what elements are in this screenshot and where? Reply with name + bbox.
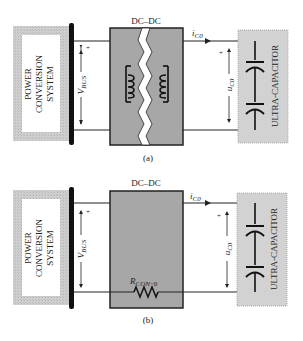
pcs-label-line1: POWER xyxy=(23,68,33,100)
svg-text:uC0: uC0 xyxy=(224,78,236,91)
caption-b: (b) xyxy=(143,315,154,325)
dcdc-label-b: DC–DC xyxy=(131,178,161,188)
current-arrow-icon-a xyxy=(205,38,211,44)
power-conversion-system-a: POWER CONVERSION SYSTEM xyxy=(13,26,69,141)
pcs-label-line3: SYSTEM xyxy=(45,66,55,102)
pcs-label-line2: CONVERSION xyxy=(34,55,44,114)
cap-voltage-indicator-b: + uC0 xyxy=(217,211,234,288)
ultracap-label-a: ULTRA-CAPACITOR xyxy=(270,45,280,127)
diagram-a: POWER CONVERSION SYSTEM + VBUS DC–DC xyxy=(13,16,288,163)
dcdc-converter-b xyxy=(110,191,183,308)
ultracap-label-b: ULTRA-CAPACITOR xyxy=(269,208,279,290)
svg-text:VBUS: VBUS xyxy=(76,239,88,258)
dcdc-converter-a xyxy=(110,28,183,145)
svg-text:+: + xyxy=(86,44,90,52)
pcs-label-line2: CONVERSION xyxy=(34,219,44,278)
dc-bus-bar-b xyxy=(69,187,74,309)
dcdc-label-a: DC–DC xyxy=(131,16,161,26)
power-conversion-system-b: POWER CONVERSION SYSTEM xyxy=(13,190,69,305)
pcs-label-line3: SYSTEM xyxy=(45,230,55,266)
dc-bus-bar-a xyxy=(69,23,74,145)
vbus-voltage-indicator-b: + VBUS xyxy=(76,208,90,288)
vbus-voltage-indicator-a: + VBUS xyxy=(76,44,90,124)
caption-a: (a) xyxy=(143,153,153,163)
ultra-capacitor-a: ULTRA-CAPACITOR xyxy=(238,30,288,143)
ultra-capacitor-b: ULTRA-CAPACITOR xyxy=(237,193,287,306)
current-arrow-icon-b xyxy=(205,200,211,206)
circuit-diagrams: POWER CONVERSION SYSTEM + VBUS DC–DC xyxy=(0,0,303,341)
pcs-label-line1: POWER xyxy=(23,232,33,264)
svg-text:uC0: uC0 xyxy=(222,242,234,255)
svg-text:+: + xyxy=(86,208,90,216)
current-label-b: iC0 xyxy=(190,191,201,203)
cap-voltage-indicator-a: + uC0 xyxy=(219,48,236,123)
diagram-b: POWER CONVERSION SYSTEM + VBUS DC–DC RCO… xyxy=(13,178,287,325)
current-label-a: iC0 xyxy=(192,28,203,40)
svg-text:VBUS: VBUS xyxy=(76,75,88,94)
svg-text:+: + xyxy=(217,212,221,220)
svg-text:+: + xyxy=(219,49,223,57)
